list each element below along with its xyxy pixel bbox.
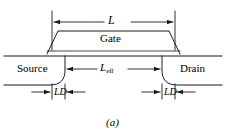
source-label: Source: [17, 63, 48, 74]
dimension-label-LD-right: LD: [164, 87, 177, 97]
dimension-label-Leff: Leff: [100, 62, 114, 74]
dimension-label-L: L: [108, 14, 115, 26]
dimension-label-LD-left: LD: [54, 87, 67, 97]
gate-label: Gate: [100, 33, 121, 44]
figure-container: L Gate Source Leff Drain LD LD (a): [0, 0, 226, 137]
figure-caption: (a): [106, 117, 119, 128]
leff-subscript: eff: [106, 67, 113, 74]
drain-label: Drain: [180, 63, 205, 74]
